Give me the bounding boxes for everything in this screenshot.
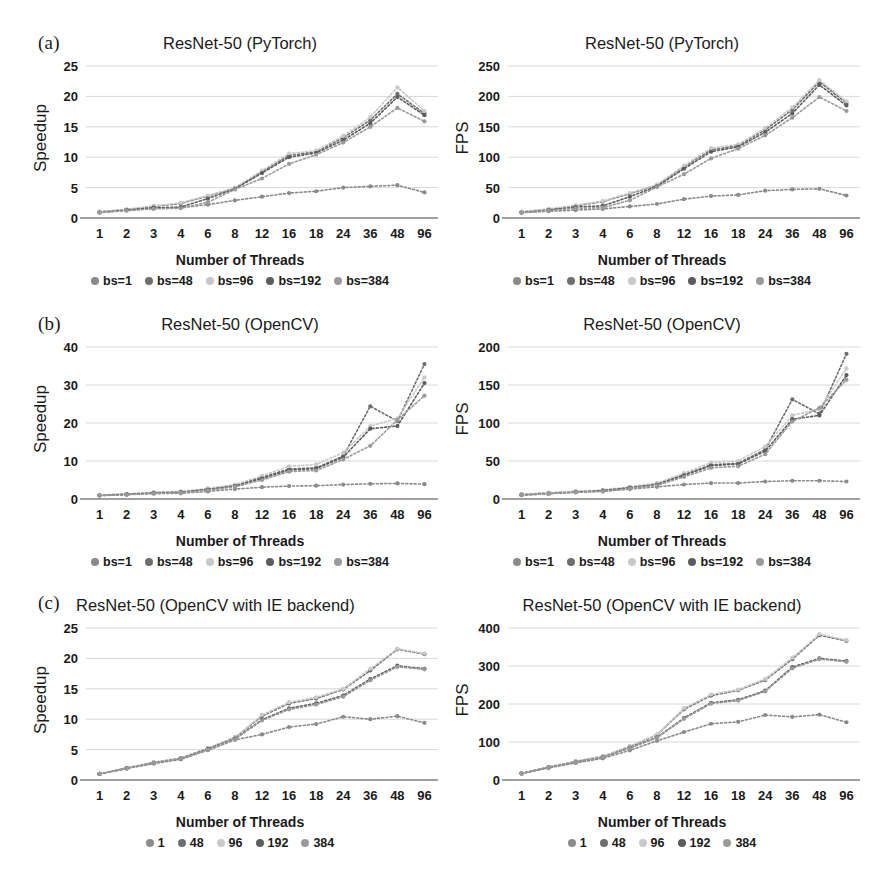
legend-marker-icon	[600, 839, 608, 847]
svg-text:24: 24	[336, 226, 351, 241]
svg-text:12: 12	[677, 507, 691, 522]
svg-text:250: 250	[478, 59, 500, 74]
svg-text:200: 200	[478, 697, 500, 712]
svg-text:96: 96	[417, 226, 431, 241]
legend-marker-icon	[206, 277, 214, 285]
legend-item[interactable]: 192	[678, 836, 711, 850]
legend-marker-icon	[513, 277, 521, 285]
plot-area: 05010015020012346812161824364896	[452, 339, 872, 535]
legend-item[interactable]: bs=48	[145, 274, 193, 288]
legend-item[interactable]: 1	[146, 836, 165, 850]
legend-item[interactable]: bs=384	[334, 274, 389, 288]
svg-text:2: 2	[545, 226, 552, 241]
legend-label: bs=1	[103, 274, 132, 288]
legend-item[interactable]: bs=384	[756, 555, 811, 569]
svg-text:36: 36	[363, 226, 377, 241]
legend-item[interactable]: 96	[217, 836, 243, 850]
legend-marker-icon	[756, 558, 764, 566]
svg-text:48: 48	[390, 788, 404, 803]
legend-marker-icon	[678, 839, 686, 847]
svg-text:1: 1	[96, 507, 103, 522]
svg-text:36: 36	[785, 507, 799, 522]
svg-text:50: 50	[486, 181, 500, 196]
x-axis-title: Number of Threads	[452, 533, 872, 549]
svg-text:8: 8	[653, 226, 660, 241]
legend-item[interactable]: bs=192	[266, 555, 321, 569]
x-axis-title: Number of Threads	[30, 533, 450, 549]
legend-item[interactable]: 384	[723, 836, 756, 850]
svg-text:24: 24	[336, 788, 351, 803]
legend-item[interactable]: bs=96	[628, 274, 676, 288]
svg-text:3: 3	[572, 507, 579, 522]
svg-text:8: 8	[653, 788, 660, 803]
chart-b-fps: ResNet-50 (OpenCV) FPS 05010015020012346…	[452, 305, 872, 585]
legend-item[interactable]: bs=192	[688, 555, 743, 569]
legend-item[interactable]: 96	[639, 836, 665, 850]
legend-label: bs=48	[157, 274, 193, 288]
svg-text:24: 24	[758, 507, 773, 522]
legend-item[interactable]: bs=1	[91, 274, 132, 288]
legend-label: 1	[158, 836, 165, 850]
svg-text:12: 12	[255, 507, 269, 522]
legend-label: bs=96	[640, 274, 676, 288]
legend-label: 96	[651, 836, 665, 850]
x-axis-title: Number of Threads	[30, 252, 450, 268]
plot-area: 010020030040012346812161824364896	[452, 620, 872, 816]
chart-title: ResNet-50 (OpenCV with IE backend)	[76, 596, 456, 615]
legend-item[interactable]: bs=48	[567, 274, 615, 288]
svg-text:300: 300	[478, 659, 500, 674]
svg-text:8: 8	[231, 788, 238, 803]
svg-text:16: 16	[704, 226, 718, 241]
legend-item[interactable]: 1	[568, 836, 587, 850]
legend-label: 192	[690, 836, 711, 850]
chart-b-speedup: ResNet-50 (OpenCV) Speedup 0102030401234…	[30, 305, 450, 585]
chart-legend: bs=1bs=48bs=96bs=192bs=384	[30, 274, 450, 288]
legend-item[interactable]: 384	[301, 836, 334, 850]
svg-text:2: 2	[545, 788, 552, 803]
legend-item[interactable]: bs=1	[513, 555, 554, 569]
svg-text:16: 16	[704, 507, 718, 522]
legend-item[interactable]: bs=1	[513, 274, 554, 288]
chart-legend: bs=1bs=48bs=96bs=192bs=384	[30, 555, 450, 569]
svg-text:48: 48	[812, 507, 826, 522]
legend-marker-icon	[91, 277, 99, 285]
legend-item[interactable]: bs=1	[91, 555, 132, 569]
legend-marker-icon	[567, 277, 575, 285]
svg-text:6: 6	[204, 788, 211, 803]
legend-item[interactable]: bs=192	[688, 274, 743, 288]
legend-item[interactable]: bs=96	[206, 555, 254, 569]
svg-text:18: 18	[731, 788, 745, 803]
legend-item[interactable]: bs=48	[145, 555, 193, 569]
legend-marker-icon	[688, 558, 696, 566]
legend-item[interactable]: 192	[256, 836, 289, 850]
svg-text:96: 96	[417, 788, 431, 803]
legend-item[interactable]: bs=96	[206, 274, 254, 288]
legend-item[interactable]: 48	[600, 836, 626, 850]
chart-c-fps: ResNet-50 (OpenCV with IE backend) FPS 0…	[452, 586, 872, 866]
legend-label: 48	[190, 836, 204, 850]
legend-label: bs=96	[218, 274, 254, 288]
legend-item[interactable]: bs=384	[756, 274, 811, 288]
svg-text:0: 0	[493, 773, 500, 788]
legend-item[interactable]: bs=192	[266, 274, 321, 288]
legend-item[interactable]: 48	[178, 836, 204, 850]
legend-label: 384	[735, 836, 756, 850]
legend-marker-icon	[178, 839, 186, 847]
svg-text:2: 2	[123, 507, 130, 522]
legend-item[interactable]: bs=96	[628, 555, 676, 569]
legend-item[interactable]: bs=384	[334, 555, 389, 569]
legend-label: 48	[612, 836, 626, 850]
legend-marker-icon	[206, 558, 214, 566]
legend-marker-icon	[146, 839, 154, 847]
svg-text:4: 4	[599, 507, 607, 522]
svg-text:20: 20	[64, 89, 78, 104]
svg-text:18: 18	[309, 788, 323, 803]
legend-marker-icon	[628, 277, 636, 285]
svg-text:2: 2	[123, 226, 130, 241]
legend-item[interactable]: bs=48	[567, 555, 615, 569]
svg-text:6: 6	[204, 226, 211, 241]
legend-marker-icon	[145, 558, 153, 566]
svg-text:4: 4	[599, 226, 607, 241]
svg-text:10: 10	[64, 454, 78, 469]
svg-text:1: 1	[518, 788, 525, 803]
